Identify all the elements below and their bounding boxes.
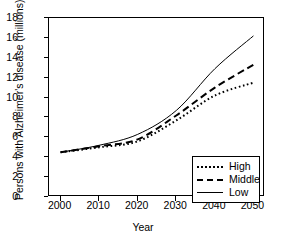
x-tick-label: 2020 <box>117 200 157 211</box>
y-tick-label: 12 <box>0 72 18 83</box>
y-tick-mark <box>44 196 48 197</box>
x-tick-mark <box>98 196 99 201</box>
legend-swatch-dotted-icon <box>197 162 223 171</box>
legend: HighMiddleLow <box>192 156 260 203</box>
x-tick-mark <box>60 196 61 201</box>
legend-item-middle: Middle <box>197 173 256 186</box>
legend-item-high: High <box>197 160 256 173</box>
x-tick-mark <box>137 196 138 201</box>
y-tick-label: 18 <box>0 12 18 23</box>
series-line-low <box>61 36 254 152</box>
series-line-high <box>61 83 254 153</box>
x-tick-label: 2010 <box>78 200 118 211</box>
y-tick-label: 0 <box>0 191 18 202</box>
chart-figure: Persons with Alzheimer's disease (millio… <box>0 0 286 251</box>
x-tick-label: 2000 <box>40 200 80 211</box>
legend-swatch-solid-icon <box>197 188 223 197</box>
series-line-middle <box>61 65 254 153</box>
y-tick-label: 8 <box>0 111 18 122</box>
legend-label: Low <box>223 187 248 198</box>
x-tick-label: 2030 <box>155 200 195 211</box>
y-tick-label: 10 <box>0 92 18 103</box>
y-tick-label: 2 <box>0 171 18 182</box>
y-tick-label: 16 <box>0 32 18 43</box>
y-tick-label: 4 <box>0 151 18 162</box>
legend-item-low: Low <box>197 186 256 199</box>
legend-label: High <box>223 161 251 172</box>
y-tick-label: 6 <box>0 131 18 142</box>
y-tick-label: 14 <box>0 52 18 63</box>
legend-swatch-dashed-icon <box>197 175 223 184</box>
x-axis-title: Year <box>0 221 286 233</box>
legend-label: Middle <box>223 174 260 185</box>
x-tick-mark <box>175 196 176 201</box>
